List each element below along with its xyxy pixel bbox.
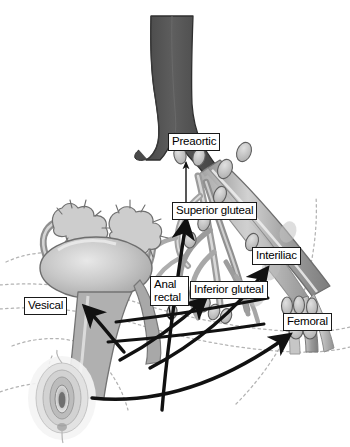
label-anal-rectal-line1: Anal — [154, 278, 176, 290]
label-vesical: Vesical — [24, 297, 67, 315]
arrow-rectal-lateral — [108, 324, 264, 342]
label-anal-rectal: Anal rectal — [150, 276, 189, 306]
label-anal-rectal-line2: rectal — [154, 291, 181, 303]
anatomy-illustration — [0, 0, 350, 447]
label-femoral: Femoral — [283, 313, 332, 331]
label-preaortic: Preaortic — [168, 133, 220, 151]
label-superior-gluteal: Superior gluteal — [172, 202, 257, 220]
lymphatic-drainage-figure: Preaortic Superior gluteal Interiliac An… — [0, 0, 350, 447]
label-interiliac: Interiliac — [252, 247, 301, 265]
node-common-iliac-upper — [234, 140, 254, 164]
node-femoral-2 — [294, 296, 305, 314]
arrow-inferior-gluteal — [120, 300, 204, 360]
label-inferior-gluteal: Inferior gluteal — [190, 281, 268, 299]
lymph-nodes — [166, 140, 318, 339]
